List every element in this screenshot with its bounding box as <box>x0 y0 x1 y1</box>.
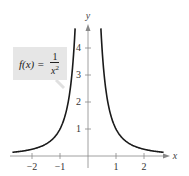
y-tick-label: 2 <box>76 96 81 107</box>
y-tick-label: 1 <box>76 123 81 134</box>
x-tick-label: −2 <box>27 161 38 172</box>
x-axis-arrow-icon <box>163 154 170 159</box>
x-tick-label: 2 <box>142 161 147 172</box>
curve-right-branch <box>101 28 164 152</box>
x-tick-label: −1 <box>55 161 66 172</box>
y-tick-label: 4 <box>76 42 81 53</box>
denominator-exponent: 2 <box>55 64 59 72</box>
y-axis-arrow-icon <box>86 24 91 31</box>
y-tick-label: 3 <box>76 69 81 80</box>
y-axis-label: y <box>85 10 91 21</box>
function-label: f(x) = 1 x2 <box>19 50 59 78</box>
fraction: 1 x2 <box>50 52 59 76</box>
x-axis-label: x <box>172 150 178 161</box>
annotation-pointer <box>56 80 64 88</box>
function-plot: −2 −1 1 2 1 2 3 4 x y <box>0 0 189 176</box>
x-tick-label: 1 <box>114 161 119 172</box>
fraction-numerator: 1 <box>50 52 59 63</box>
fraction-denominator: x2 <box>51 63 59 76</box>
function-lhs: f(x) = <box>19 58 44 70</box>
